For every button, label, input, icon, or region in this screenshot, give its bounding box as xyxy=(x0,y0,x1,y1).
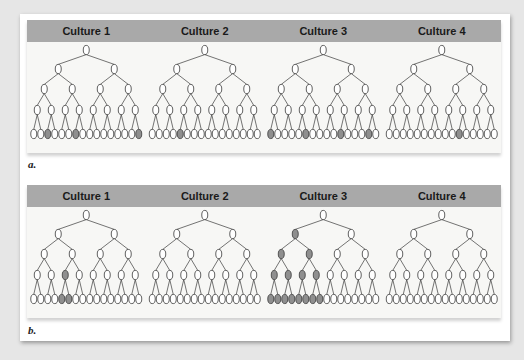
cell-node xyxy=(212,129,218,138)
cell-node xyxy=(296,129,302,138)
cell-node xyxy=(334,249,340,258)
culture-tree-3 xyxy=(268,210,379,303)
cell-node xyxy=(453,84,459,93)
lineage-edge xyxy=(365,94,372,106)
cell-node xyxy=(425,84,431,93)
lineage-edge xyxy=(107,280,111,295)
cell-node xyxy=(55,64,61,73)
cell-node xyxy=(355,270,361,279)
cell-node xyxy=(484,294,490,303)
cell-node-marked xyxy=(275,294,281,303)
lineage-edge xyxy=(180,280,184,295)
cell-node xyxy=(449,294,455,303)
lineage-edge xyxy=(302,259,309,271)
panel-b: Culture 1 Culture 2 Culture 3 Culture 4 xyxy=(27,185,501,318)
lineage-edge xyxy=(431,115,435,130)
panel-a: Culture 1 Culture 2 Culture 3 Culture 4 xyxy=(27,20,501,153)
cell-node xyxy=(181,105,187,114)
lineage-edge xyxy=(240,94,247,106)
lineage-edge xyxy=(295,74,309,85)
cell-node xyxy=(108,129,114,138)
lineage-edge xyxy=(403,115,407,130)
cell-node xyxy=(66,129,72,138)
cell-node xyxy=(275,129,281,138)
cell-node xyxy=(122,129,128,138)
lineage-edge xyxy=(309,259,316,271)
lineage-edge xyxy=(219,239,233,250)
cell-node xyxy=(373,294,379,303)
lineage-edge xyxy=(104,280,108,295)
lineage-edge xyxy=(327,280,331,295)
lineage-edge xyxy=(414,220,442,230)
lineage-edge xyxy=(236,115,240,130)
lineage-edge xyxy=(407,280,411,295)
lineage-edge xyxy=(118,115,122,130)
lineage-edge xyxy=(62,115,66,130)
cell-node xyxy=(153,270,159,279)
cell-node xyxy=(34,105,40,114)
culture-header-bar: Culture 1 Culture 2 Culture 3 Culture 4 xyxy=(27,20,501,42)
cell-node xyxy=(411,229,417,238)
cell-node xyxy=(108,294,114,303)
cell-node xyxy=(38,294,44,303)
cell-node xyxy=(306,84,312,93)
cell-node xyxy=(369,105,375,114)
lineage-edge xyxy=(358,94,365,106)
lineage-edge xyxy=(463,280,467,295)
cell-node xyxy=(254,129,260,138)
lineage-edge xyxy=(445,115,449,130)
cell-node xyxy=(45,294,51,303)
cell-node xyxy=(449,129,455,138)
cell-node xyxy=(418,270,424,279)
lineage-edge xyxy=(222,115,226,130)
cell-node xyxy=(156,129,162,138)
lineage-edge xyxy=(369,280,373,295)
lineage-edge xyxy=(484,94,491,106)
lineage-edge xyxy=(184,94,191,106)
cell-node-marked xyxy=(177,129,183,138)
cell-node xyxy=(247,129,253,138)
cell-node xyxy=(397,249,403,258)
lineage-edge xyxy=(184,115,188,130)
cell-node xyxy=(386,129,392,138)
cell-node xyxy=(373,129,379,138)
cell-node xyxy=(202,45,208,54)
lineage-edge xyxy=(407,115,411,130)
lineage-edge xyxy=(212,94,219,106)
lineage-edge xyxy=(236,280,240,295)
lineage-edge xyxy=(212,259,219,271)
lineage-edge xyxy=(212,280,216,295)
lineage-edge xyxy=(240,259,247,271)
cell-node xyxy=(48,105,54,114)
cell-node xyxy=(216,249,222,258)
lineage-edge xyxy=(166,115,170,130)
cell-node xyxy=(292,64,298,73)
lineage-edge xyxy=(484,259,491,271)
cell-node xyxy=(244,84,250,93)
lineage-edge xyxy=(166,280,170,295)
lineage-edge xyxy=(90,280,94,295)
cell-node xyxy=(125,249,131,258)
lineage-edge xyxy=(79,115,83,130)
cell-node-marked xyxy=(306,249,312,258)
cell-node xyxy=(240,294,246,303)
cell-node xyxy=(87,294,93,303)
cell-node xyxy=(34,270,40,279)
cell-node xyxy=(348,229,354,238)
lineage-edge xyxy=(58,220,86,230)
cell-node xyxy=(219,294,225,303)
cell-node xyxy=(216,84,222,93)
cell-node xyxy=(101,129,107,138)
cell-node xyxy=(428,129,434,138)
cell-node xyxy=(237,270,243,279)
cell-node xyxy=(129,294,135,303)
cell-node xyxy=(488,105,494,114)
lineage-edge xyxy=(132,280,136,295)
lineage-edge xyxy=(156,115,160,130)
lineage-edge xyxy=(393,115,397,130)
lineage-edge xyxy=(358,280,362,295)
lineage-edge xyxy=(37,94,44,106)
cell-node xyxy=(421,294,427,303)
lineage-edge xyxy=(170,115,174,130)
cell-node-marked xyxy=(73,129,79,138)
